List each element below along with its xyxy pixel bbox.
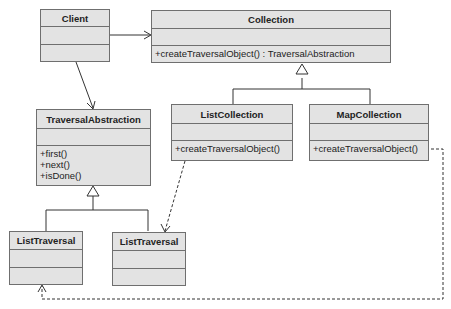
dependency-listcollection xyxy=(165,161,185,231)
attributes-compartment xyxy=(10,250,82,268)
attributes-compartment xyxy=(310,124,428,141)
attributes-compartment xyxy=(113,251,185,269)
operations-compartment: +createTraversalObject() xyxy=(310,141,428,154)
attributes-compartment xyxy=(41,27,109,45)
class-map-collection[interactable]: MapCollection +createTraversalObject() xyxy=(309,104,429,161)
operations-compartment: +first() +next() +isDone() xyxy=(37,146,150,181)
class-list-collection[interactable]: ListCollection +createTraversalObject() xyxy=(171,104,293,161)
attributes-compartment xyxy=(152,29,390,46)
class-list-traversal-right[interactable]: ListTraversal xyxy=(112,232,186,286)
class-client[interactable]: Client xyxy=(40,9,110,62)
generalization-triangle-icon xyxy=(296,64,308,74)
operation: +next() xyxy=(40,159,150,170)
association-client-traversal xyxy=(76,62,93,108)
class-list-traversal-left[interactable]: ListTraversal xyxy=(9,231,83,285)
arrowhead-icon xyxy=(161,224,170,232)
class-traversal-abstraction[interactable]: TraversalAbstraction +first() +next() +i… xyxy=(36,109,151,186)
attributes-compartment xyxy=(37,129,150,146)
class-name: ListCollection xyxy=(172,105,292,124)
attributes-compartment xyxy=(172,124,292,141)
operation: +isDone() xyxy=(40,170,150,181)
operation: +createTraversalObject() xyxy=(313,143,428,154)
operations-compartment: +createTraversalObject() xyxy=(172,141,292,154)
class-name: MapCollection xyxy=(310,105,428,124)
class-name: TraversalAbstraction xyxy=(37,110,150,129)
class-name: Collection xyxy=(152,11,390,29)
class-collection[interactable]: Collection +createTraversalObject() : Tr… xyxy=(151,10,391,63)
operation: +createTraversalObject() xyxy=(175,143,292,154)
operations-compartment: +createTraversalObject() : TraversalAbst… xyxy=(152,46,390,59)
operation: +createTraversalObject() : TraversalAbst… xyxy=(155,48,390,59)
class-name: ListTraversal xyxy=(113,233,185,251)
generalization-triangle-icon xyxy=(87,186,99,196)
class-name: Client xyxy=(41,10,109,27)
class-name: ListTraversal xyxy=(10,232,82,250)
operation: +first() xyxy=(40,148,150,159)
